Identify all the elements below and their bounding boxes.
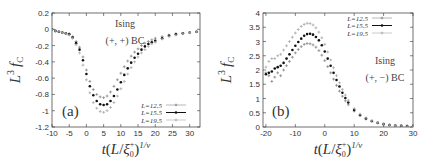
data-point (326, 51, 329, 54)
data-point (329, 64, 332, 67)
legend-label: L=19.5 (140, 117, 162, 125)
data-point (376, 121, 379, 124)
data-point (326, 57, 329, 60)
data-point (341, 92, 344, 95)
data-point (270, 57, 273, 60)
panel-a-chart: -10-50510152025300.20-0.2-0.4-0.6-0.8-1-… (5, 9, 200, 159)
data-point (137, 52, 140, 55)
y-tick-label: 4 (256, 9, 261, 18)
data-point (116, 78, 119, 81)
data-point (82, 56, 85, 59)
data-point (147, 43, 150, 46)
y-tick-label: -1 (42, 107, 50, 116)
data-point (137, 56, 140, 59)
data-point (323, 59, 326, 62)
data-point (332, 78, 335, 81)
data-point (297, 48, 300, 51)
data-point (338, 85, 341, 88)
data-point (106, 95, 109, 98)
data-point (175, 104, 178, 107)
data-point (276, 66, 279, 69)
data-point (144, 48, 147, 51)
data-point (326, 65, 329, 68)
data-point (306, 22, 309, 25)
data-point (344, 99, 347, 102)
data-point (303, 23, 306, 26)
data-point (291, 49, 294, 52)
x-tick-label: 10 (116, 129, 125, 138)
data-point (116, 95, 119, 98)
data-point (82, 64, 85, 67)
x-tick-label: 20 (151, 129, 160, 138)
legend: L=12.5L=15.5L=19.5 (346, 15, 392, 38)
data-point (133, 51, 136, 54)
data-point (320, 54, 323, 57)
data-point (61, 31, 64, 34)
data-point (323, 50, 326, 53)
data-point (181, 32, 184, 35)
x-tick-label: 10 (350, 129, 359, 138)
data-point (381, 17, 384, 20)
data-point (130, 55, 133, 58)
x-tick-label: 5 (101, 129, 106, 138)
x-tick-label: 30 (409, 129, 418, 138)
data-point (82, 59, 85, 62)
panel-label: (a) (62, 103, 79, 120)
data-point (332, 66, 335, 69)
data-point (89, 85, 92, 88)
data-point (120, 81, 123, 84)
data-point (195, 30, 198, 33)
y-axis-label: L3fC (5, 57, 25, 85)
y-tick-label: -0.4 (35, 58, 49, 67)
data-point (294, 32, 297, 35)
legend: L=12.5L=15.5L=19.5 (140, 102, 186, 125)
y-tick-label: 0 (45, 25, 50, 34)
y-tick-label: 1.5 (249, 80, 261, 89)
data-point (300, 37, 303, 40)
data-point (147, 45, 150, 48)
data-point (412, 125, 415, 128)
data-point (267, 74, 270, 77)
data-point (315, 46, 318, 49)
y-tick-label: 2.5 (249, 52, 261, 61)
data-point (150, 38, 153, 41)
y-tick-label: 1 (256, 95, 261, 104)
data-point (300, 25, 303, 28)
data-point (119, 72, 122, 75)
data-point (268, 72, 271, 75)
data-point (285, 64, 288, 67)
data-point (303, 35, 306, 38)
data-point (123, 80, 126, 83)
data-point (265, 66, 268, 69)
data-point (347, 99, 350, 102)
data-point (133, 60, 136, 63)
data-point (106, 109, 109, 112)
data-point (276, 54, 279, 57)
data-point (381, 32, 384, 35)
data-point (381, 24, 384, 27)
panel-label: (b) (272, 103, 290, 120)
data-point (285, 57, 288, 60)
y-tick-label: 0.2 (38, 9, 50, 18)
x-axis-label: t(L/ξ0+)1/ν (102, 140, 151, 159)
data-point (88, 80, 91, 83)
x-tick-label: 20 (379, 129, 388, 138)
data-point (291, 56, 294, 59)
data-point (113, 101, 116, 104)
data-point (92, 101, 95, 104)
data-point (312, 33, 315, 36)
data-point (309, 42, 312, 45)
data-point (335, 84, 338, 87)
data-point (92, 94, 95, 97)
data-point (338, 90, 341, 93)
y-tick-label: -0.2 (35, 42, 49, 51)
data-point (294, 52, 297, 55)
data-point (321, 44, 324, 47)
data-point (317, 49, 320, 52)
data-point (137, 47, 140, 50)
x-tick-label: -5 (66, 129, 74, 138)
data-point (109, 106, 112, 109)
data-point (140, 48, 143, 51)
x-axis-label: t(L/ξ0+)1/ν (314, 140, 363, 159)
y-tick-label: -0.6 (35, 74, 49, 83)
